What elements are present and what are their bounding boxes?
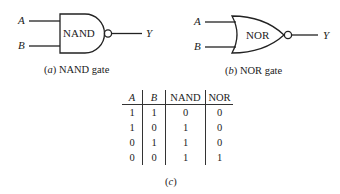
nand-input-b-label: B (18, 40, 25, 51)
table-row: 1 0 1 0 (122, 120, 233, 135)
truth-table-caption: (c) (165, 177, 177, 188)
cell: 0 (206, 135, 234, 150)
cell: 1 (166, 135, 206, 150)
cell: 1 (122, 120, 143, 135)
cell: 0 (166, 105, 206, 121)
table-row: 0 1 1 0 (122, 135, 233, 150)
header-b: B (143, 90, 166, 105)
cell: 1 (143, 135, 166, 150)
cell: 0 (206, 120, 234, 135)
nand-caption: (a) NAND gate (44, 65, 109, 76)
nand-body-label: NAND (63, 28, 95, 39)
header-nor: NOR (206, 90, 234, 105)
cell: 1 (166, 120, 206, 135)
header-a: A (122, 90, 143, 105)
cell: 1 (122, 105, 143, 121)
truth-table: A B NAND NOR 1 1 0 0 1 0 1 0 0 1 1 0 0 0… (122, 90, 233, 165)
cell: 1 (206, 150, 234, 165)
nor-output-label: Y (323, 30, 329, 41)
table-row: 1 1 0 0 (122, 105, 233, 121)
nor-body-label: NOR (246, 30, 269, 41)
cell: 0 (143, 150, 166, 165)
nand-inversion-bubble (104, 30, 111, 37)
nor-input-b-label: B (194, 41, 201, 52)
header-nand: NAND (166, 90, 206, 105)
nand-output-label: Y (146, 28, 152, 39)
cell: 0 (122, 150, 143, 165)
nor-inversion-bubble (284, 31, 291, 38)
cell: 1 (166, 150, 206, 165)
table-row: 0 0 1 1 (122, 150, 233, 165)
cell: 0 (206, 105, 234, 121)
cell: 0 (143, 120, 166, 135)
nand-input-a-label: A (18, 15, 25, 26)
cell: 1 (143, 105, 166, 121)
nor-input-a-label: A (194, 16, 201, 27)
cell: 0 (122, 135, 143, 150)
nor-caption: (b) NOR gate (225, 66, 282, 77)
table-header-row: A B NAND NOR (122, 90, 233, 105)
